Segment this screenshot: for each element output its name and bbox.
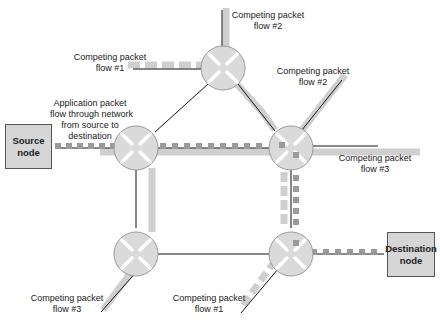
label-flow3-bottom: Competing packetflow #3 [26, 293, 108, 315]
label-flow3-right: Competing packetflow #3 [334, 153, 416, 175]
label-flow1-bottom: Competing packetflow #1 [168, 293, 250, 315]
application-packet-flow [55, 143, 377, 255]
router-bottom-left [114, 232, 158, 276]
label-flow2-right: Competing packetflow #2 [273, 66, 353, 88]
label-flow2-top: Competing packetflow #2 [228, 10, 308, 32]
router-bottom-right [269, 232, 313, 276]
router-mid-right [269, 126, 313, 170]
router-top [201, 46, 245, 90]
source-node: Sourcenode [5, 124, 52, 169]
label-app-flow: Application packetflow through network f… [50, 98, 130, 142]
label-flow1-top: Competing packetflow #1 [70, 52, 150, 74]
destination-node: Destinationnode [387, 232, 435, 277]
